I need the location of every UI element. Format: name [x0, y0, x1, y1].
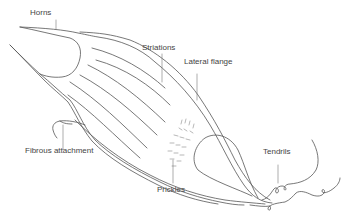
lower-horn: [10, 45, 244, 205]
tendril-lower: [250, 178, 340, 210]
label-striations: Striations: [142, 44, 175, 52]
label-horns: Horns: [30, 9, 51, 17]
striation: [88, 65, 165, 122]
lateral-flange-edge: [80, 32, 270, 200]
striation: [92, 48, 165, 88]
posterior-lobe: [194, 135, 258, 198]
upper-horn: [20, 27, 272, 203]
label-tendrils: Tendrils: [263, 148, 291, 156]
label-prickles: Prickles: [157, 186, 185, 194]
horn-loop: [20, 27, 81, 77]
label-lateral-flange: Lateral flange: [184, 58, 232, 66]
egg-case-diagram: Horns Striations Lateral flange Fibrous …: [0, 0, 341, 217]
fibrous-attachment: [53, 121, 85, 138]
prickles-cluster: [168, 119, 194, 166]
lower-horn-inner: [10, 45, 218, 204]
label-fibrous-attachment: Fibrous attachment: [25, 147, 93, 155]
